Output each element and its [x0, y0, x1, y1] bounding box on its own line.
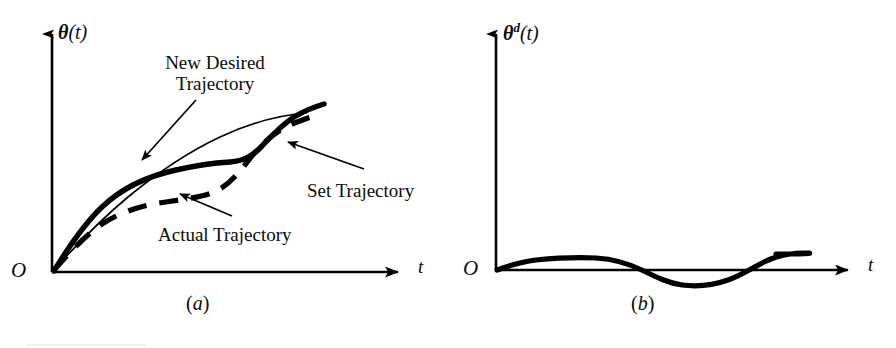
figure-root: θ(t) O t New Desired Trajectory Set Traj…: [0, 0, 896, 348]
panel-b-y-axis-label-theta: θ: [503, 22, 513, 44]
panel-b-caption: (b): [631, 292, 654, 314]
panel-b-x-axis-label: t: [868, 254, 873, 275]
panel-b-graphics: [0, 0, 896, 348]
panel-b-y-axis-label: θd(t): [503, 21, 539, 44]
panel-b-caption-letter: b: [638, 292, 648, 314]
scan-artifact-line: [26, 344, 146, 346]
panel-b-y-axis-label-arg: (t): [520, 22, 539, 44]
panel-b-origin-label: O: [463, 257, 478, 281]
panel-b-caption-text: (: [631, 292, 638, 314]
